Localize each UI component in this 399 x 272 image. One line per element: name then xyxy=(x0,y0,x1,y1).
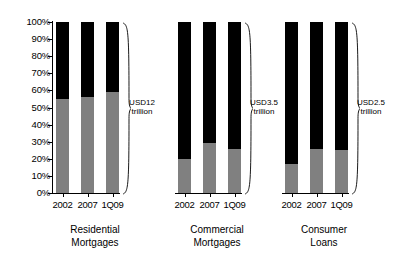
x-axis-tick-label: 1Q09 xyxy=(330,199,352,210)
group-title-line1: Residential xyxy=(70,224,119,237)
y-axis-tick xyxy=(48,159,52,160)
group-title: ResidentialMortgages xyxy=(70,224,119,249)
y-axis-tick xyxy=(48,22,52,23)
y-axis-tick xyxy=(48,125,52,126)
total-annotation-line2: trillion xyxy=(357,107,385,117)
x-axis-tick xyxy=(113,193,114,197)
bar-segment-lower xyxy=(310,149,323,193)
y-axis-line xyxy=(52,21,53,194)
y-axis-tick xyxy=(48,176,52,177)
group-title-line1: Consumer xyxy=(301,224,347,237)
bar xyxy=(285,22,298,193)
x-axis-tick-label: 2002 xyxy=(282,199,302,210)
x-axis-tick xyxy=(342,193,343,197)
bar-segment-lower xyxy=(335,150,348,193)
bar xyxy=(56,22,69,193)
group-title-line2: Mortgages xyxy=(190,237,243,250)
total-annotation-line2: trillion xyxy=(129,107,155,117)
x-axis-tick xyxy=(317,193,318,197)
x-axis-tick xyxy=(210,193,211,197)
x-axis-tick-label: 2002 xyxy=(175,199,195,210)
y-axis-tick xyxy=(48,39,52,40)
y-axis-tick-label: 100% xyxy=(27,17,51,27)
x-axis-tick xyxy=(185,193,186,197)
x-axis-tick-label: 2007 xyxy=(307,199,327,210)
y-axis-tick-labels: 100%90%80%70%60%50%40%30%20%10%0% xyxy=(14,16,50,198)
group-title: CommercialMortgages xyxy=(190,224,243,249)
total-annotation: USD3.5trillion xyxy=(250,98,278,117)
bar xyxy=(228,22,241,193)
total-annotation: USD2.5trillion xyxy=(357,98,385,117)
x-axis-tick xyxy=(292,193,293,197)
y-axis-tick xyxy=(48,108,52,109)
bar-segment-lower xyxy=(228,149,241,193)
y-axis-tick xyxy=(48,56,52,57)
bar-segment-lower xyxy=(81,97,94,193)
bar-segment-lower xyxy=(203,143,216,193)
group-title-line2: Loans xyxy=(301,237,347,250)
group-title-line1: Commercial xyxy=(190,224,243,237)
total-annotation: USD12trillion xyxy=(129,98,155,117)
bar-segment-lower xyxy=(56,99,69,193)
x-axis-tick xyxy=(88,193,89,197)
bar-segment-lower xyxy=(285,164,298,193)
bar-chart: 100%90%80%70%60%50%40%30%20%10%0% 200220… xyxy=(0,0,399,272)
y-axis-tick xyxy=(48,73,52,74)
total-annotation-line2: trillion xyxy=(250,107,278,117)
y-axis-tick xyxy=(48,193,52,194)
group-title: ConsumerLoans xyxy=(301,224,347,249)
total-annotation-line1: USD2.5 xyxy=(357,98,385,108)
bar xyxy=(203,22,216,193)
x-axis-tick-label: 2007 xyxy=(78,199,98,210)
bar-segment-lower xyxy=(178,159,191,193)
x-axis-tick-label: 2007 xyxy=(200,199,220,210)
bar-segment-lower xyxy=(106,92,119,193)
total-annotation-line1: USD12 xyxy=(129,98,155,108)
x-axis-tick-label: 1Q09 xyxy=(101,199,123,210)
bar xyxy=(335,22,348,193)
x-axis-tick xyxy=(63,193,64,197)
bar xyxy=(310,22,323,193)
bar xyxy=(81,22,94,193)
group-title-line2: Mortgages xyxy=(70,237,119,250)
y-axis-tick xyxy=(48,142,52,143)
bar xyxy=(106,22,119,193)
x-axis-tick-label: 1Q09 xyxy=(223,199,245,210)
total-annotation-line1: USD3.5 xyxy=(250,98,278,108)
bar xyxy=(178,22,191,193)
y-axis-tick xyxy=(48,90,52,91)
x-axis-tick xyxy=(235,193,236,197)
x-axis-tick-label: 2002 xyxy=(53,199,73,210)
